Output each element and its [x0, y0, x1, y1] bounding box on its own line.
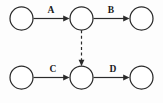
edge-b-arrowhead [123, 16, 129, 22]
edge-a: A [34, 5, 70, 21]
edge-c-label: C [50, 64, 57, 74]
bottom-left-node [10, 66, 33, 89]
top-middle-node [70, 7, 93, 30]
bottom-middle-node [70, 66, 93, 89]
edge-d: D [94, 64, 130, 80]
top-left-node [10, 7, 33, 30]
edge-b: B [94, 5, 130, 21]
edge-dashed-vertical [79, 30, 85, 66]
graph-diagram: A B C D [0, 0, 163, 103]
top-right-node [130, 7, 153, 30]
edge-a-label: A [48, 5, 55, 15]
edge-d-arrowhead [123, 75, 129, 81]
graph-canvas: A B C D [0, 0, 163, 103]
edge-d-label: D [110, 64, 117, 74]
edge-c: C [34, 64, 70, 80]
edge-dashed-arrowhead [79, 60, 85, 66]
edge-b-label: B [108, 5, 115, 15]
bottom-right-node [130, 66, 153, 89]
edge-a-arrowhead [63, 16, 69, 22]
edge-c-arrowhead [63, 75, 69, 81]
